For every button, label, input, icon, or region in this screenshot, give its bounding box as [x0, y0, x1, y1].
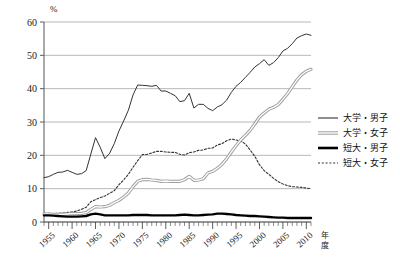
legend-label-1: 大学・女子 [343, 127, 388, 138]
ytick-label-10: 10 [27, 183, 37, 194]
xtick-label-1955: 1955 [37, 230, 57, 250]
xtick-label-1980: 1980 [154, 230, 174, 250]
legend-label-2: 短大・男子 [343, 142, 388, 153]
chart-container: 0102030405060%19551960196519701975198019… [0, 0, 400, 272]
ytick-label-20: 20 [27, 150, 37, 161]
legend-label-0: 大学・男子 [343, 112, 388, 123]
legend-label-3: 短大・女子 [343, 157, 388, 168]
xtick-label-1985: 1985 [177, 230, 197, 250]
x-axis-name-line1: 年 [321, 230, 329, 240]
ytick-label-30: 30 [27, 117, 37, 128]
xtick-label-2005: 2005 [271, 230, 291, 250]
xtick-label-1975: 1975 [131, 230, 151, 250]
series-line-1-inner [44, 69, 311, 214]
y-axis-unit-label: % [50, 4, 58, 14]
xtick-label-2010: 2010 [295, 230, 315, 250]
x-axis-name-line2: 度 [321, 240, 329, 250]
series-line-3 [44, 139, 311, 214]
xtick-label-1970: 1970 [107, 230, 127, 250]
ytick-label-0: 0 [32, 217, 37, 228]
series-line-1-outer [44, 69, 311, 214]
xtick-label-2000: 2000 [248, 230, 268, 250]
xtick-label-1995: 1995 [224, 230, 244, 250]
xtick-label-1960: 1960 [60, 230, 80, 250]
xtick-label-1965: 1965 [84, 230, 104, 250]
ytick-label-60: 60 [27, 17, 37, 28]
xtick-label-1990: 1990 [201, 230, 221, 250]
ytick-label-40: 40 [27, 83, 37, 94]
line-chart: 0102030405060%19551960196519701975198019… [0, 0, 400, 272]
ytick-label-50: 50 [27, 50, 37, 61]
